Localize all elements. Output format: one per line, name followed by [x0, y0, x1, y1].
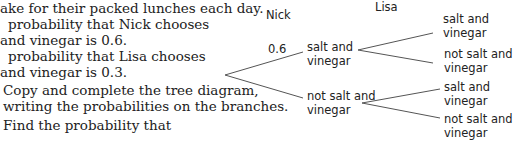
node-nick-salt: salt and vinegar [307, 40, 353, 68]
node-label-line2: vinegar [444, 126, 513, 140]
node-label-line2: vinegar [307, 103, 376, 117]
node-lisa-salt-1: salt and vinegar [443, 12, 489, 40]
node-label-line1: not salt and [444, 47, 513, 61]
header-lisa: Lisa [375, 0, 398, 14]
node-label-line2: vinegar [307, 54, 353, 68]
node-lisa-not-salt-2: not salt and vinegar [444, 112, 513, 140]
node-label-line1: salt and [444, 80, 490, 94]
node-label-line2: vinegar [444, 61, 513, 75]
header-nick: Nick [266, 8, 291, 22]
probability-label-nick-salt: 0.6 [268, 42, 286, 56]
node-label-line1: salt and [307, 40, 353, 54]
node-label-line1: not salt and [307, 89, 376, 103]
branch-nick-not-salt [225, 75, 303, 98]
tree-diagram-branches [0, 0, 520, 152]
node-label-line1: not salt and [444, 112, 513, 126]
node-label-line1: salt and [443, 12, 489, 26]
node-lisa-not-salt-1: not salt and vinegar [444, 47, 513, 75]
node-lisa-salt-2: salt and vinegar [444, 80, 490, 108]
branch-lisa-1 [358, 33, 433, 50]
node-label-line2: vinegar [443, 26, 489, 40]
branch-nick-salt [225, 52, 303, 75]
node-nick-not-salt: not salt and vinegar [307, 89, 376, 117]
node-label-line2: vinegar [444, 94, 490, 108]
branch-lisa-2 [358, 50, 433, 63]
